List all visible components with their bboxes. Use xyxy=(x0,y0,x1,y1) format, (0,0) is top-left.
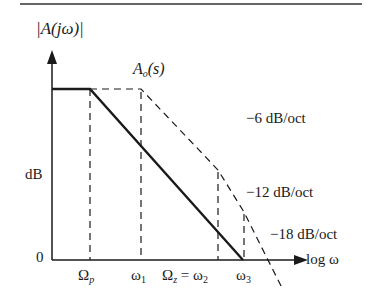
tick-omega-z-eq-omega-2: Ωz = ω2 xyxy=(162,268,208,285)
tick-omega-2-sub: 2 xyxy=(203,274,208,285)
x-axis-label: log ω xyxy=(306,252,339,267)
tick-omega-3-main: ω xyxy=(236,267,246,283)
tick-omega-1-sub: 1 xyxy=(141,274,146,285)
ao-label-arg: (s) xyxy=(148,60,165,77)
tick-omega-2-main: ω xyxy=(193,267,203,283)
tick-omega-3: ω3 xyxy=(236,268,251,285)
closed-loop-response-curve xyxy=(52,89,243,260)
slope-label-12: −12 dB/oct xyxy=(246,185,313,200)
y-unit-label: dB xyxy=(25,167,43,182)
tick-omega-z-main: Ω xyxy=(162,267,173,283)
tick-omega-1: ω1 xyxy=(131,268,146,285)
y-axis-label-text: |A(jω)| xyxy=(36,19,84,38)
ao-curve-label: Ao(s) xyxy=(133,61,165,79)
tick-omega-p-sub: p xyxy=(89,274,94,285)
y-axis-label: |A(jω)| xyxy=(36,20,84,37)
y-zero-label: 0 xyxy=(36,250,44,265)
tick-omega-z-sub: z xyxy=(173,274,177,285)
y-axis-arrow-icon xyxy=(47,50,57,64)
slope-label-6: −6 dB/oct xyxy=(246,111,306,126)
ao-label-main: A xyxy=(133,60,143,77)
tick-equals: = xyxy=(181,267,189,283)
x-axis-label-text: log ω xyxy=(306,251,339,267)
tick-omega-p-main: Ω xyxy=(78,267,89,283)
tick-omega-p: Ωp xyxy=(78,268,94,285)
tick-omega-1-main: ω xyxy=(131,267,141,283)
slope-label-18: −18 dB/oct xyxy=(270,227,337,242)
tick-omega-3-sub: 3 xyxy=(246,274,251,285)
